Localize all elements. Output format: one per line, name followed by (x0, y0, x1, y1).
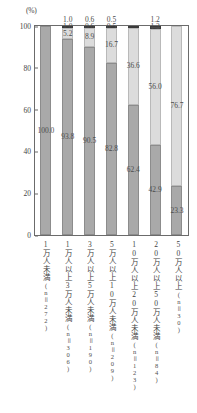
bar-column[interactable]: 1.01.05.293.8 (62, 26, 73, 235)
bar-column[interactable]: 0.60.68.990.5 (84, 26, 95, 235)
category-label-4: 5万人以上10万人未満(n＝209) (106, 240, 117, 381)
category-label-2: 1万人以上3万人未満(n＝306) (62, 240, 73, 372)
bar-segment[interactable]: 36.6 (128, 28, 139, 104)
bar-segment-value-label: 8.9 (85, 34, 94, 42)
category-name: 1万人以上3万人未満 (63, 240, 71, 322)
bar-segment-value-label: 16.7 (105, 42, 118, 50)
y-axis-tick: 20 (24, 189, 36, 198)
category-axis-labels: 1万人未満(n＝272)1万人以上3万人未満(n＝306)3万人以上5万人未満(… (34, 240, 189, 410)
bar-segment[interactable]: 100.0 (40, 26, 51, 235)
category-name: 3万人以上5万人未満 (85, 240, 93, 322)
plot-area: 100806040200 100.01.01.05.293.80.60.68.9… (34, 25, 189, 236)
bar-segment-value-label: 90.5 (83, 137, 96, 145)
category-name: 5万人以上10万人未満 (108, 240, 116, 331)
y-axis-tick: 0 (27, 231, 35, 240)
bar-segment-value-label: 42.9 (149, 186, 162, 194)
bar-column[interactable]: 1.21.256.042.9 (150, 26, 161, 235)
bar-column[interactable]: 76.723.3 (171, 26, 182, 235)
category-name: 20万人以上50万人未満 (152, 240, 160, 340)
bar-segment[interactable]: 42.9 (150, 145, 161, 235)
category-sample-size: (n＝209) (108, 332, 115, 381)
bar-segment-value-label: 76.7 (170, 102, 183, 110)
category-label-1: 1万人未満(n＝272) (40, 240, 51, 331)
bar-segment-value-label: 62.4 (127, 166, 140, 174)
category-sample-size: (n＝123) (130, 341, 137, 390)
category-sample-size: (n＝30) (175, 291, 182, 333)
category-name: 1万人未満 (41, 240, 49, 281)
category-name: 10万人以上20万人未満 (130, 240, 138, 340)
bar-segment[interactable]: 62.4 (128, 105, 139, 235)
bar-column[interactable]: 100.0 (40, 26, 51, 235)
bar-segment[interactable]: 56.0 (150, 29, 161, 146)
bar-segment[interactable]: 90.5 (84, 47, 95, 235)
category-label-3: 3万人以上5万人未満(n＝190) (84, 240, 95, 372)
y-axis-tick: 40 (24, 147, 36, 156)
bar-segment-value-label: 23.3 (170, 207, 183, 215)
bar-column[interactable]: 0.50.516.782.8 (106, 26, 117, 235)
y-axis-tick: 80 (24, 63, 36, 72)
category-sample-size: (n＝272) (42, 282, 49, 331)
stacked-bar-chart: (%) 100806040200 100.01.01.05.293.80.60.… (0, 0, 197, 413)
bar-segment[interactable]: 16.7 (106, 28, 117, 63)
category-name: 50万人以上 (174, 240, 182, 290)
y-axis-tick: 100 (20, 22, 35, 31)
category-sample-size: (n＝306) (64, 323, 71, 372)
bar-segment-value-label: 5.2 (63, 30, 72, 38)
bar-segment[interactable]: 93.8 (62, 39, 73, 235)
y-axis-unit-label: (%) (26, 6, 37, 15)
bar-segment[interactable]: 82.8 (106, 63, 117, 235)
category-label-6: 20万人以上50万人未満(n＝84) (150, 240, 161, 383)
bar-segment[interactable]: 8.9 (84, 28, 95, 47)
category-label-7: 50万人以上(n＝30) (172, 240, 183, 333)
category-sample-size: (n＝84) (152, 341, 159, 383)
y-axis-tick: 60 (24, 105, 36, 114)
bar-group: 100.01.01.05.293.80.60.68.990.50.50.516.… (35, 26, 188, 235)
bar-segment-value-label: 36.6 (127, 63, 140, 71)
bar-segment-value-label: 100.0 (37, 127, 54, 135)
bar-segment[interactable]: 5.2 (62, 28, 73, 39)
bar-column[interactable]: 36.662.4 (128, 26, 139, 235)
bar-segment[interactable]: 23.3 (171, 186, 182, 235)
bar-segment-value-label: 93.8 (61, 133, 74, 141)
category-sample-size: (n＝190) (86, 323, 93, 372)
category-label-5: 10万人以上20万人未満(n＝123) (128, 240, 139, 390)
bar-segment-value-label: 82.8 (105, 145, 118, 153)
bar-segment[interactable]: 76.7 (171, 26, 182, 186)
bar-segment-value-label: 56.0 (149, 83, 162, 91)
